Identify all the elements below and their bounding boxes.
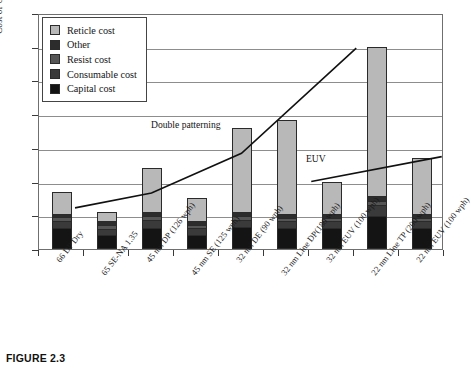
x-axis-tick (263, 250, 264, 256)
legend-swatch-icon (50, 84, 60, 94)
legend-item: Capital cost (50, 81, 137, 96)
y-axis-tick (32, 149, 38, 150)
x-axis-tick (38, 250, 39, 256)
legend-item: Reticle cost (50, 23, 137, 38)
chart-annotation: EUV (306, 153, 326, 164)
legend-swatch-icon (50, 69, 60, 79)
x-axis-tick (308, 250, 309, 256)
x-axis-tick (128, 250, 129, 256)
y-axis-tick (32, 250, 38, 251)
legend-swatch-icon (50, 40, 60, 50)
x-axis-tick (443, 250, 444, 256)
legend-item: Other (50, 38, 137, 53)
legend-swatch-icon (50, 54, 60, 64)
legend-label: Other (67, 39, 90, 50)
figure-caption: FIGURE 2.3 (6, 352, 65, 364)
x-axis-tick (398, 250, 399, 256)
y-axis-tick (32, 115, 38, 116)
x-axis-tick (83, 250, 84, 256)
legend-swatch-icon (50, 25, 60, 35)
y-axis-tick (32, 48, 38, 49)
legend-label: Consumable cost (67, 69, 137, 80)
y-axis-tick (32, 14, 38, 15)
legend: Reticle costOtherResist costConsumable c… (42, 17, 147, 102)
x-axis-tick (173, 250, 174, 256)
y-axis-tick (32, 81, 38, 82)
trend-line (311, 157, 442, 182)
x-axis-tick (218, 250, 219, 256)
y-axis-tick (32, 183, 38, 184)
y-axis-tick (32, 216, 38, 217)
legend-item: Resist cost (50, 52, 137, 67)
legend-label: Resist cost (67, 54, 111, 65)
x-axis-tick (353, 250, 354, 256)
legend-item: Consumable cost (50, 67, 137, 82)
y-axis-label: Cost of Ownership for 5000 Wafers per Ma… (0, 0, 4, 34)
legend-label: Reticle cost (67, 25, 115, 36)
legend-label: Capital cost (67, 83, 115, 94)
chart-annotation: Double patterning (151, 119, 221, 130)
